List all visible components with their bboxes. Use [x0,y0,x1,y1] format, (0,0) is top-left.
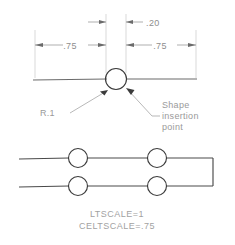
top-line-left-segment [33,79,107,80]
ltscale-caption: LTSCALE=1 [90,209,144,219]
dim-gap-label: .20 [146,18,160,28]
radius-label: R.1 [40,108,55,118]
radius-leader-group: R.1 [40,90,108,118]
bottom-lower-seg-1 [19,186,69,187]
insertion-leader-arrow [126,88,135,95]
bottom-circle-lower-left [69,177,88,196]
bottom-upper-seg-1 [19,158,69,159]
dim-right-label: .75 [153,41,167,51]
insertion-point-leader-group: Shape insertion point [126,88,199,132]
bottom-circle-lower-right [148,177,167,196]
top-object-geometry [33,69,197,90]
bottom-captions-group: LTSCALE=1 CELTSCALE=.75 [79,209,155,231]
bottom-circle-upper-left [69,149,88,168]
insertion-label-line-2: insertion [162,111,199,121]
drawing-canvas: .20 .75 .75 R.1 [0,0,235,245]
insertion-label-line-1: Shape [162,100,190,110]
dim-left-arrow-start [35,43,43,47]
radius-leader-line [70,92,105,113]
dimension-left-75: .75 [35,41,106,51]
dim-right-arrow-end [188,43,196,47]
dim-right-arrow-start [126,43,134,47]
dimension-right-75: .75 [126,41,196,51]
dim-left-label: .75 [63,41,77,51]
bottom-view-geometry [19,149,213,196]
dim-gap-arrow-left [99,20,106,24]
shape-circle [106,69,127,90]
celtscale-caption: CELTSCALE=.75 [79,221,155,231]
insertion-label-line-3: point [162,122,183,132]
technical-drawing-svg: .20 .75 .75 R.1 [0,0,235,245]
bottom-circle-upper-right [148,149,167,168]
dimension-gap-20: .20 [88,18,160,28]
dim-left-arrow-end [98,43,106,47]
dim-gap-arrow-right [126,20,133,24]
